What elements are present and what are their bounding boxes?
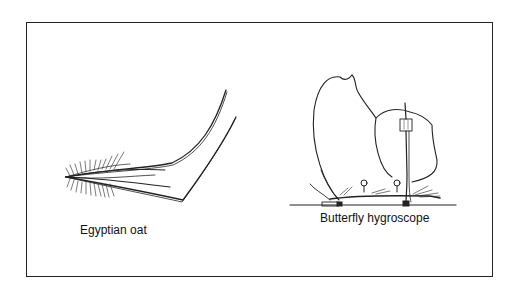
butterfly-hygroscope-illustration <box>290 75 456 206</box>
caption-butterfly-hygroscope: Butterfly hygroscope <box>320 211 429 225</box>
caption-egyptian-oat: Egyptian oat <box>80 223 147 237</box>
figure-illustration <box>0 0 520 297</box>
egyptian-oat-illustration <box>66 90 236 202</box>
